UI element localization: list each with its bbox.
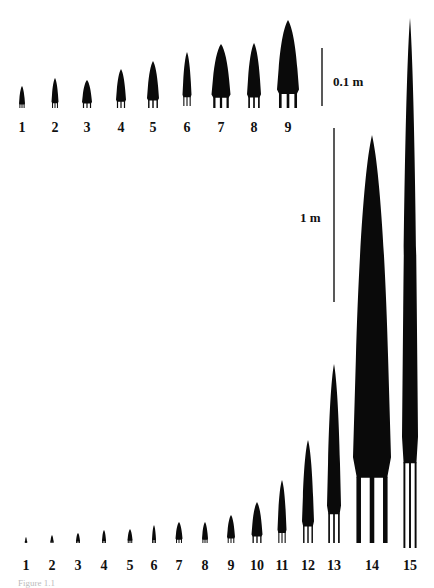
bottom-rocket-label: 13 bbox=[327, 558, 341, 574]
scale-label-top: 0.1 m bbox=[333, 74, 363, 90]
bottom-rocket-7-icon bbox=[176, 522, 183, 543]
bottom-rocket-label: 7 bbox=[176, 558, 183, 574]
bottom-rocket-label: 12 bbox=[301, 558, 315, 574]
top-panel-rockets bbox=[19, 20, 299, 108]
bottom-rocket-14-icon bbox=[353, 135, 391, 543]
bottom-rocket-15-icon bbox=[402, 18, 418, 548]
bottom-rocket-8-icon bbox=[202, 522, 208, 543]
bottom-rocket-label: 14 bbox=[365, 558, 379, 574]
top-rocket-label: 9 bbox=[285, 120, 292, 136]
bottom-rocket-label: 1 bbox=[23, 558, 30, 574]
top-rocket-label: 7 bbox=[218, 120, 225, 136]
top-rocket-label: 8 bbox=[251, 120, 258, 136]
bottom-rocket-6-icon bbox=[152, 525, 156, 543]
scale-label-bottom: 1 m bbox=[300, 210, 321, 226]
top-rocket-7-icon bbox=[212, 44, 231, 108]
bottom-rocket-label: 8 bbox=[202, 558, 209, 574]
top-rocket-6-icon bbox=[183, 52, 192, 106]
top-rocket-label: 2 bbox=[52, 120, 59, 136]
bottom-rocket-1-icon bbox=[25, 537, 27, 543]
bottom-rocket-3-icon bbox=[76, 533, 80, 543]
figure-caption: Figure 1.1 bbox=[18, 578, 55, 588]
bottom-rocket-label: 3 bbox=[75, 558, 82, 574]
top-rocket-3-icon bbox=[82, 80, 92, 108]
bottom-rocket-label: 10 bbox=[250, 558, 264, 574]
bottom-rocket-label: 11 bbox=[275, 558, 288, 574]
top-rocket-label: 1 bbox=[19, 120, 26, 136]
bottom-rocket-label: 9 bbox=[228, 558, 235, 574]
bottom-rocket-10-icon bbox=[252, 502, 263, 543]
bottom-rocket-label: 4 bbox=[101, 558, 108, 574]
top-rocket-9-icon bbox=[277, 20, 299, 108]
bottom-rocket-label: 15 bbox=[403, 558, 417, 574]
bottom-rocket-9-icon bbox=[227, 515, 235, 543]
bottom-rocket-label: 2 bbox=[49, 558, 56, 574]
bottom-rocket-label: 6 bbox=[151, 558, 158, 574]
bottom-rocket-11-icon bbox=[278, 480, 287, 543]
top-rocket-2-icon bbox=[52, 78, 59, 108]
top-rocket-label: 6 bbox=[184, 120, 191, 136]
top-rocket-5-icon bbox=[147, 61, 159, 108]
top-rocket-1-icon bbox=[19, 86, 25, 108]
bottom-rocket-13-icon bbox=[327, 364, 341, 543]
top-rocket-8-icon bbox=[247, 43, 261, 108]
top-rocket-4-icon bbox=[116, 69, 126, 108]
bottom-rocket-2-icon bbox=[50, 535, 53, 543]
top-rocket-label: 5 bbox=[150, 120, 157, 136]
top-rocket-label: 3 bbox=[84, 120, 91, 136]
bottom-rocket-4-icon bbox=[102, 530, 106, 543]
bottom-rocket-5-icon bbox=[128, 529, 133, 543]
top-rocket-label: 4 bbox=[118, 120, 125, 136]
bottom-rocket-label: 5 bbox=[127, 558, 134, 574]
bottom-rocket-12-icon bbox=[302, 440, 314, 543]
